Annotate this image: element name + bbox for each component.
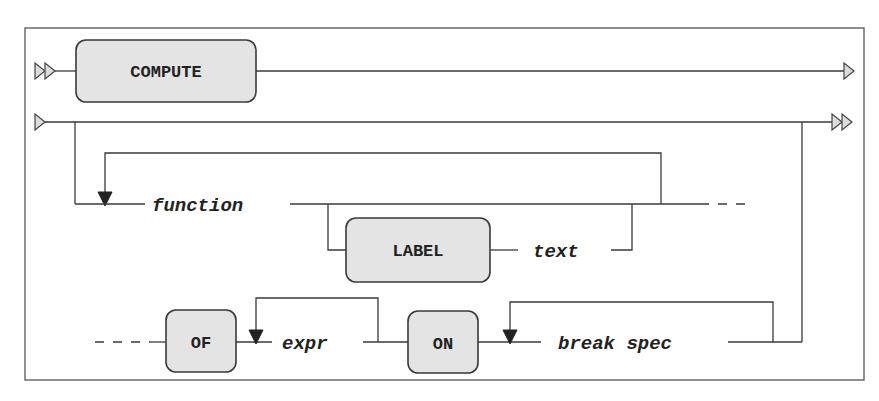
line-continue-arrow-icon (844, 63, 854, 79)
syntax-diagram: COMPUTE function LABEL text (0, 0, 879, 401)
of-keyword-box: OF (166, 310, 236, 372)
compute-keyword-box: COMPUTE (76, 40, 256, 102)
label-keyword-box: LABEL (346, 218, 490, 282)
break-spec-variable: break spec (558, 333, 672, 355)
on-keyword-box: ON (408, 311, 478, 373)
expr-variable: expr (282, 333, 328, 355)
compute-keyword: COMPUTE (130, 63, 201, 82)
on-keyword: ON (433, 335, 453, 354)
row-compute: COMPUTE (35, 40, 854, 102)
label-keyword: LABEL (392, 242, 443, 261)
double-arrow-start-icon (35, 63, 55, 79)
row-of-on: OF expr ON break spec (95, 298, 802, 373)
of-keyword: OF (191, 334, 211, 353)
double-arrow-end-icon (832, 114, 852, 130)
function-variable: function (152, 195, 243, 217)
continue-start-arrow-icon (35, 114, 45, 130)
text-variable: text (533, 241, 579, 263)
row-function: function LABEL text (75, 153, 750, 282)
